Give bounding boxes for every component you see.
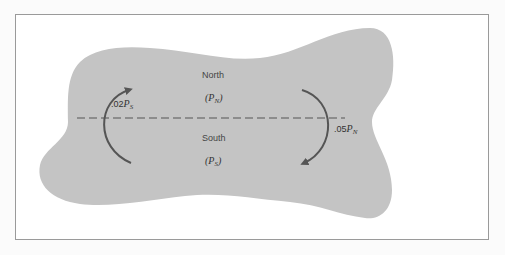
north-population-label: (PN) [205, 92, 222, 105]
south-population-subscript: S [214, 160, 218, 168]
south-population-label: (PS) [205, 155, 221, 168]
north-population-subscript: N [214, 97, 219, 105]
flow-subscript: S [130, 103, 134, 111]
flow-coefficient: .05 [334, 124, 347, 134]
diagram-canvas [0, 0, 505, 255]
north-to-south-flow-label: .05PN [334, 123, 357, 136]
flow-coefficient: .02 [111, 99, 124, 109]
south-to-north-flow-label: .02PS [111, 98, 133, 111]
south-region-label: South [202, 133, 226, 143]
flow-subscript: N [353, 128, 358, 136]
north-region-label: North [202, 70, 224, 80]
